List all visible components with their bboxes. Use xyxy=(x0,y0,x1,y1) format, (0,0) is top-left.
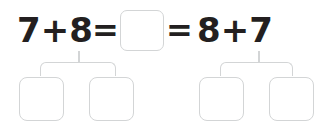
left-bracket-span xyxy=(40,62,116,76)
equation-right-expression: 8+7 xyxy=(197,9,273,51)
equals-sign-second: = xyxy=(166,9,193,51)
left-number-bond-bracket xyxy=(0,51,170,77)
sum-answer-box[interactable] xyxy=(120,10,164,51)
right-pair-answer-box-2[interactable] xyxy=(269,77,314,121)
right-pair-answer-box-1[interactable] xyxy=(199,77,244,121)
left-pair-answer-box-2[interactable] xyxy=(89,77,134,121)
equation-left-expression: 7+8 xyxy=(17,9,93,51)
equals-sign-first: = xyxy=(92,9,119,51)
left-pair-answer-box-1[interactable] xyxy=(19,77,64,121)
right-number-bond-bracket xyxy=(180,51,333,77)
right-bracket-span xyxy=(220,62,293,76)
math-worksheet-exercise: 7+8 = = 8+7 xyxy=(0,0,333,131)
